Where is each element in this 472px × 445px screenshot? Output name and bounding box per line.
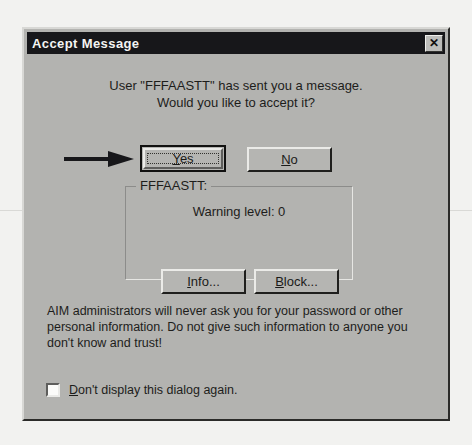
- yes-button-label-rest: es: [180, 151, 194, 166]
- message-text: User "FFFAASTT" has sent you a message. …: [24, 77, 448, 111]
- yes-button-focus-rect: Yes: [147, 153, 219, 164]
- info-button[interactable]: Info...: [161, 269, 246, 294]
- yes-button-face: Yes: [143, 148, 223, 169]
- accept-message-dialog: Accept Message ✕ User "FFFAASTT" has sen…: [22, 27, 450, 421]
- user-info-groupbox: FFFAASTT: Warning level: 0: [125, 186, 353, 280]
- no-button[interactable]: No: [247, 147, 332, 172]
- yes-button-label: Yes: [172, 151, 193, 166]
- no-button-label: No: [281, 152, 298, 167]
- message-line-1: User "FFFAASTT" has sent you a message.: [24, 77, 448, 94]
- security-warning-line-2: personal information. Do not give such i…: [47, 319, 437, 335]
- yes-button-accesskey: Y: [172, 151, 179, 166]
- close-button[interactable]: ✕: [425, 35, 443, 52]
- security-warning-line-3: don't know and trust!: [47, 335, 437, 351]
- dont-display-again-label: Don't display this dialog again.: [69, 383, 237, 397]
- no-button-accesskey: N: [281, 152, 290, 167]
- dont-display-again-row[interactable]: Don't display this dialog again.: [46, 383, 237, 397]
- yes-button[interactable]: Yes: [140, 145, 226, 172]
- info-button-label-rest: nfo...: [191, 274, 220, 289]
- warning-level-text: Warning level: 0: [126, 204, 352, 219]
- security-warning-text: AIM administrators will never ask you fo…: [47, 303, 437, 351]
- block-button-accesskey: B: [275, 274, 284, 289]
- dialog-title: Accept Message: [32, 36, 139, 51]
- message-line-2: Would you like to accept it?: [24, 94, 448, 111]
- security-warning-line-1: AIM administrators will never ask you fo…: [47, 303, 437, 319]
- groupbox-legend: FFFAASTT:: [136, 178, 211, 193]
- no-button-label-rest: o: [291, 152, 298, 167]
- block-button-label-rest: lock...: [284, 274, 318, 289]
- dont-display-again-label-rest: on't display this dialog again.: [78, 383, 237, 397]
- dont-display-again-accesskey: D: [69, 383, 78, 397]
- info-button-label: Info...: [187, 274, 220, 289]
- block-button[interactable]: Block...: [254, 269, 339, 294]
- dialog-titlebar[interactable]: Accept Message ✕: [27, 32, 445, 54]
- right-arrow-icon: [64, 147, 136, 171]
- close-icon: ✕: [429, 37, 439, 49]
- block-button-label: Block...: [275, 274, 318, 289]
- dont-display-again-checkbox[interactable]: [46, 383, 60, 397]
